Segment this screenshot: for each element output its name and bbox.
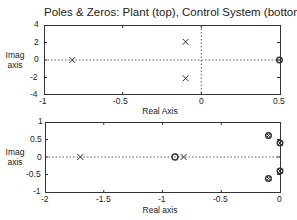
top-ytick: 4 <box>34 19 39 29</box>
bottom-xtick: -1 <box>158 194 166 204</box>
pole-marker-icon <box>77 154 83 160</box>
top-xtick: 0.5 <box>273 96 285 106</box>
bottom-xtick: -2 <box>41 194 49 204</box>
top-xtick: -1 <box>39 96 47 106</box>
bottom-xlabel: Real axis <box>130 205 190 215</box>
top-plot-area <box>44 25 281 95</box>
figure-title: Poles & Zeros: Plant (top), Control Syst… <box>44 6 280 18</box>
bottom-xtick: -0.5 <box>213 194 228 204</box>
top-ytick: -4 <box>30 89 38 99</box>
pole-marker-icon <box>183 75 189 81</box>
top-ytick: -2 <box>30 72 38 82</box>
bottom-plot-area <box>45 122 281 193</box>
pole-marker-icon <box>183 39 189 45</box>
bottom-ylabel: Imag axis <box>2 147 28 167</box>
bottom-ytick: 0 <box>37 152 42 162</box>
top-xtick: 0 <box>199 96 204 106</box>
pole-marker-icon <box>69 57 75 63</box>
bottom-xtick: -1.5 <box>96 194 111 204</box>
bottom-ytick: -0.5 <box>26 169 41 179</box>
top-ylabel: Imag axis <box>2 50 28 70</box>
top-ylabel-line1: Imag <box>2 50 28 60</box>
bottom-ytick: 0.5 <box>30 134 42 144</box>
top-xlabel: Real Axis <box>130 106 190 116</box>
bottom-ytick: -1 <box>33 186 41 196</box>
top-reference-lines <box>44 25 280 95</box>
top-ytick: 0 <box>34 54 39 64</box>
bottom-ylabel-line2: axis <box>2 157 28 167</box>
bottom-ylabel-line1: Imag <box>2 147 28 157</box>
bottom-ytick: 1 <box>38 116 43 126</box>
top-xtick: -0.5 <box>113 96 128 106</box>
top-ylabel-line2: axis <box>2 60 28 70</box>
top-ytick: 2 <box>34 37 39 47</box>
bottom-xtick: 0 <box>277 194 282 204</box>
